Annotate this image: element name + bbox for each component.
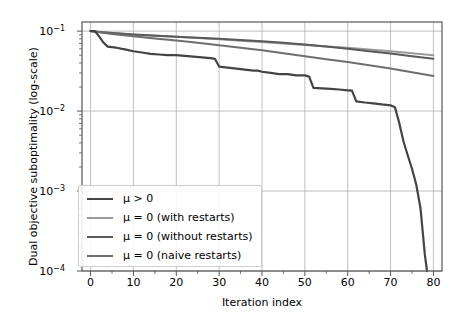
x-tick-10: 10 bbox=[126, 276, 140, 289]
legend-label-0: μ > 0 bbox=[123, 192, 153, 205]
x-axis-label: Iteration index bbox=[82, 296, 442, 309]
chart-figure: Dual objective suboptimality (log-scale)… bbox=[0, 0, 464, 320]
legend-item-3: μ = 0 (naive restarts) bbox=[79, 246, 261, 265]
legend-swatch-1 bbox=[87, 217, 113, 219]
y-tick--2: 10−2 bbox=[39, 104, 65, 119]
plot-area bbox=[0, 0, 464, 320]
x-tick-80: 80 bbox=[426, 276, 440, 289]
legend-label-1: μ = 0 (with restarts) bbox=[123, 211, 235, 224]
legend-swatch-3 bbox=[87, 255, 113, 257]
x-tick-60: 60 bbox=[341, 276, 355, 289]
y-tick--1: 10−1 bbox=[39, 24, 65, 39]
x-tick-0: 0 bbox=[87, 276, 94, 289]
legend-swatch-0 bbox=[87, 198, 113, 200]
x-tick-40: 40 bbox=[255, 276, 269, 289]
x-tick-70: 70 bbox=[384, 276, 398, 289]
legend: μ > 0μ = 0 (with restarts)μ = 0 (without… bbox=[78, 185, 262, 267]
y-tick--3: 10−3 bbox=[39, 184, 65, 199]
x-tick-50: 50 bbox=[298, 276, 312, 289]
x-tick-20: 20 bbox=[169, 276, 183, 289]
legend-item-1: μ = 0 (with restarts) bbox=[79, 208, 261, 227]
legend-item-0: μ > 0 bbox=[79, 189, 261, 208]
legend-item-2: μ = 0 (without restarts) bbox=[79, 227, 261, 246]
legend-swatch-2 bbox=[87, 236, 113, 238]
y-axis-label: Dual objective suboptimality (log-scale) bbox=[27, 27, 40, 287]
legend-label-3: μ = 0 (naive restarts) bbox=[123, 249, 241, 262]
y-tick--4: 10−4 bbox=[39, 264, 65, 279]
x-tick-30: 30 bbox=[212, 276, 226, 289]
legend-label-2: μ = 0 (without restarts) bbox=[123, 230, 253, 243]
